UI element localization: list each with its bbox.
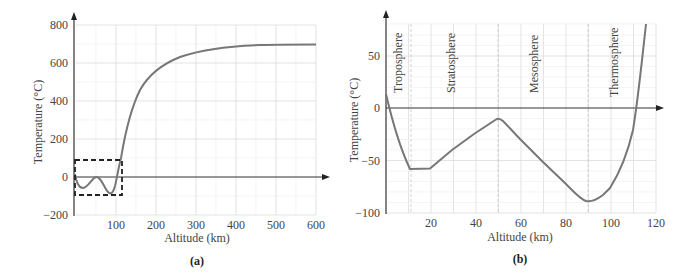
y-tick: −100 bbox=[355, 206, 380, 220]
panel-b-chart: Troposphere Stratosphere Mesosphere Ther… bbox=[347, 10, 665, 266]
x-tick: 100 bbox=[602, 216, 620, 230]
panel-b-y-arrow-icon bbox=[383, 10, 389, 18]
panel-b-layer-labels: Troposphere Stratosphere Mesosphere Ther… bbox=[391, 28, 621, 97]
panel-a-y-ticks: 800 600 400 200 0 −200 bbox=[43, 18, 68, 222]
x-tick: 120 bbox=[647, 216, 665, 230]
panel-a-chart: 800 600 400 200 0 −200 100 200 300 400 5… bbox=[31, 12, 330, 268]
x-tick: 80 bbox=[560, 216, 572, 230]
panel-b-y-label: Temperature (°C) bbox=[347, 78, 361, 162]
panel-a-caption: (a) bbox=[190, 254, 204, 268]
figure: 800 600 400 200 0 −200 100 200 300 400 5… bbox=[0, 0, 699, 279]
y-tick: 50 bbox=[368, 49, 380, 63]
y-tick: −50 bbox=[361, 154, 380, 168]
y-tick: 400 bbox=[50, 94, 68, 108]
y-tick: 0 bbox=[62, 170, 68, 184]
x-tick: 400 bbox=[227, 218, 245, 232]
x-tick: 200 bbox=[147, 218, 165, 232]
x-tick: 60 bbox=[515, 216, 527, 230]
panel-b-caption: (b) bbox=[513, 252, 528, 266]
layer-label-thermosphere: Thermosphere bbox=[607, 28, 621, 97]
x-tick: 40 bbox=[470, 216, 482, 230]
y-tick: 200 bbox=[50, 132, 68, 146]
panel-a-grid bbox=[76, 25, 316, 215]
y-tick: 600 bbox=[50, 56, 68, 70]
panel-a-y-label: Temperature (°C) bbox=[31, 80, 45, 164]
x-tick: 600 bbox=[307, 218, 325, 232]
panel-a-x-ticks: 100 200 300 400 500 600 bbox=[107, 218, 325, 232]
x-tick: 100 bbox=[107, 218, 125, 232]
panel-a-temperature-curve bbox=[75, 45, 316, 194]
layer-label-stratosphere: Stratosphere bbox=[444, 33, 458, 93]
panel-b-x-arrow-icon bbox=[656, 105, 664, 111]
panel-b-x-label: Altitude (km) bbox=[487, 230, 553, 244]
y-tick: −200 bbox=[43, 208, 68, 222]
panel-a-x-arrow-icon bbox=[322, 174, 330, 180]
x-tick: 500 bbox=[267, 218, 285, 232]
y-tick: 0 bbox=[374, 101, 380, 115]
x-tick: 300 bbox=[187, 218, 205, 232]
layer-label-mesosphere: Mesosphere bbox=[527, 35, 541, 93]
y-tick: 800 bbox=[50, 18, 68, 32]
layer-label-troposphere: Troposphere bbox=[391, 33, 405, 93]
x-tick: 20 bbox=[425, 216, 437, 230]
panel-a-x-label: Altitude (km) bbox=[164, 231, 230, 245]
panel-b-x-ticks: 20 40 60 80 100 120 bbox=[425, 216, 665, 230]
panel-a-y-arrow-icon bbox=[71, 12, 77, 20]
